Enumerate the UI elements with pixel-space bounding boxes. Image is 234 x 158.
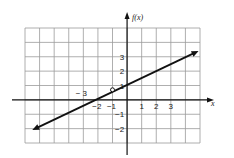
x-tick-label: 1 — [139, 102, 144, 111]
grid — [25, 28, 200, 143]
y-tick-label: 2 — [120, 67, 125, 76]
y-tick-label: −1 — [115, 110, 125, 119]
x-tick-label: 3 — [169, 102, 174, 111]
y-axis-arrow-icon — [125, 12, 130, 19]
open-circle-marker — [111, 88, 115, 92]
x-tick-label: 2 — [154, 102, 159, 111]
x-axis-label: x — [210, 99, 215, 108]
function-graph: xf(x) − 3−2−1123321−1−2 — [0, 0, 234, 158]
tick-labels: − 3−2−1123321−1−2 — [76, 53, 174, 134]
axes: xf(x) — [12, 12, 215, 155]
y-tick-label: −2 — [115, 125, 125, 134]
x-tick-label: −2 — [92, 102, 102, 111]
y-tick-label: 3 — [120, 53, 125, 62]
x-tick-label: − 3 — [76, 89, 88, 98]
y-axis-label: f(x) — [132, 13, 143, 22]
